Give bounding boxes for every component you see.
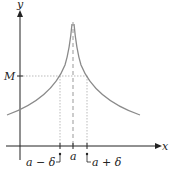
a-plus-delta-label: a + δ [92,156,122,169]
a-label: a [70,150,77,163]
y-axis-label: y [16,0,24,11]
x-axis-label: x [162,140,169,153]
a-minus-delta-dot [59,153,61,155]
y-axis-arrow-icon [17,10,23,17]
curve-right [74,24,140,115]
x-axis-arrow-icon [155,143,162,149]
a-plus-delta-dot [86,153,88,155]
a-minus-delta-label: a − δ [26,156,56,169]
a-minus-delta-bracket [56,155,60,162]
a-plus-delta-bracket [87,155,91,162]
asymptote-diagram: y x M a a − δ a + δ [0,0,169,180]
m-label: M [3,70,16,83]
curve-left [7,24,72,115]
